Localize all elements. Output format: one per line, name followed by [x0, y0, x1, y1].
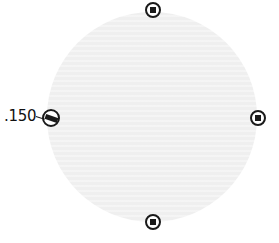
- top-resize-handle[interactable]: [145, 2, 161, 18]
- angle-value-label: .150: [4, 107, 36, 125]
- bottom-resize-handle[interactable]: [145, 214, 161, 230]
- circle-handle-icon: [255, 115, 261, 121]
- circle-handle-icon: [150, 7, 156, 13]
- rotation-handle-icon: [45, 114, 59, 123]
- gradient-disc[interactable]: [47, 12, 257, 222]
- right-resize-handle[interactable]: [250, 110, 266, 126]
- radial-editor-canvas: .150: [0, 0, 279, 243]
- circle-handle-icon: [150, 219, 156, 225]
